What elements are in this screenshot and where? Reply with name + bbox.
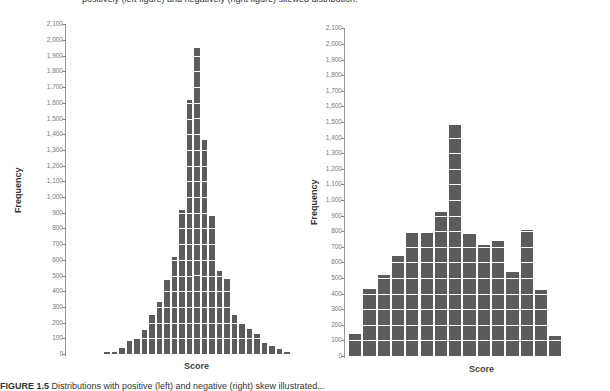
y-tick-mark xyxy=(341,356,345,357)
figure-number: FIGURE 1.5 xyxy=(0,381,49,391)
histogram-bar xyxy=(520,230,534,356)
histogram-bar xyxy=(377,275,391,356)
y-tick-label: 700 xyxy=(308,243,342,250)
histogram-bar xyxy=(391,256,405,356)
histogram-bar xyxy=(548,336,562,356)
y-tick-mark xyxy=(341,247,345,248)
y-tick-label: 1,600 xyxy=(308,102,342,109)
y-tick-label: 600 xyxy=(308,258,342,265)
y-tick-mark xyxy=(341,184,345,185)
histogram-bar xyxy=(491,241,505,356)
y-tick-label: 1,900 xyxy=(308,56,342,63)
histogram-bar xyxy=(405,233,419,356)
y-tick-label: 1,700 xyxy=(308,87,342,94)
histogram-bar xyxy=(477,245,491,356)
histogram-bar xyxy=(505,272,519,356)
y-tick-label: 1,300 xyxy=(308,149,342,156)
y-tick-label: 1,000 xyxy=(308,196,342,203)
y-tick-label: 1,200 xyxy=(308,165,342,172)
y-tick-mark xyxy=(341,340,345,341)
figure-caption-text: Distributions with positive (left) and n… xyxy=(52,381,325,391)
y-tick-mark xyxy=(341,200,345,201)
y-tick-mark xyxy=(341,294,345,295)
y-tick-label: 500 xyxy=(308,274,342,281)
histogram-bar xyxy=(420,233,434,356)
histogram-bar xyxy=(448,125,462,356)
y-tick-mark xyxy=(341,169,345,170)
y-tick-label: 0 xyxy=(308,352,342,359)
y-tick-label: 400 xyxy=(308,290,342,297)
histogram-bar xyxy=(348,334,362,356)
y-tick-mark xyxy=(341,60,345,61)
y-tick-mark xyxy=(341,216,345,217)
histogram-bar xyxy=(534,290,548,356)
right-x-axis-label: Score xyxy=(469,364,494,374)
y-tick-label: 1,500 xyxy=(308,118,342,125)
y-tick-mark xyxy=(341,122,345,123)
y-tick-label: 1,400 xyxy=(308,134,342,141)
y-tick-label: 1,100 xyxy=(308,180,342,187)
y-tick-label: 1,800 xyxy=(308,71,342,78)
right-histogram: Frequency Score 010020030040050060070080… xyxy=(0,0,610,375)
y-tick-mark xyxy=(341,44,345,45)
histogram-bar xyxy=(362,289,376,356)
right-y-axis-label: Frequency xyxy=(309,185,319,225)
y-tick-mark xyxy=(341,262,345,263)
y-tick-label: 200 xyxy=(308,321,342,328)
y-tick-mark xyxy=(341,153,345,154)
y-tick-mark xyxy=(341,278,345,279)
y-tick-mark xyxy=(341,231,345,232)
bottom-caption: FIGURE 1.5 Distributions with positive (… xyxy=(0,381,325,391)
y-tick-mark xyxy=(341,138,345,139)
y-tick-label: 900 xyxy=(308,212,342,219)
y-tick-mark xyxy=(341,28,345,29)
y-tick-mark xyxy=(341,325,345,326)
y-tick-mark xyxy=(341,309,345,310)
y-tick-label: 2,000 xyxy=(308,40,342,47)
histogram-bar xyxy=(434,212,448,356)
y-tick-label: 2,100 xyxy=(308,24,342,31)
histogram-bar xyxy=(462,234,476,356)
y-tick-label: 800 xyxy=(308,227,342,234)
y-tick-mark xyxy=(341,91,345,92)
y-tick-mark xyxy=(341,106,345,107)
y-tick-label: 300 xyxy=(308,305,342,312)
y-tick-label: 100 xyxy=(308,336,342,343)
y-tick-mark xyxy=(341,75,345,76)
